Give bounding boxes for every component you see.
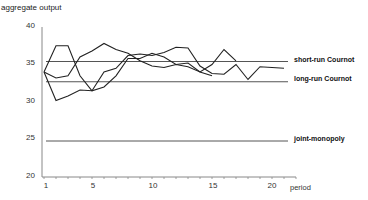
series-line-1 [44,46,212,91]
series-line-2 [44,44,236,79]
chart-container: aggregate output 40 35 30 25 20 1 5 10 1… [0,0,368,200]
plot-area [0,0,368,200]
series-line-3 [44,47,284,100]
